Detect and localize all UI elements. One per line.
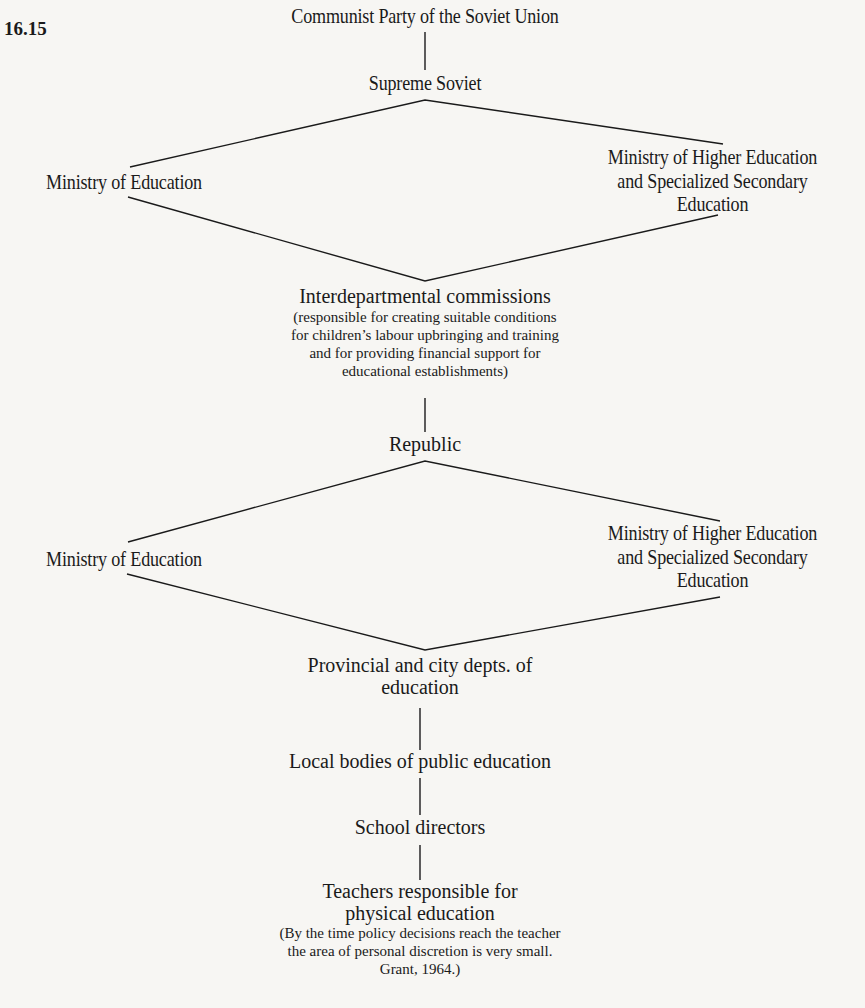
node-interdepartmental-commissions: Interdepartmental commissions (responsib…: [0, 285, 850, 380]
node-school-directors: School directors: [0, 816, 840, 839]
node-label: Communist Party of the Soviet Union: [291, 4, 558, 28]
node-label: Interdepartmental commissions: [0, 285, 850, 308]
node-provincial-city-depts: Provincial and city depts. of education: [0, 654, 840, 698]
node-union-ministry-higher-education: Ministry of Higher Education and Special…: [581, 146, 843, 217]
node-republic: Republic: [0, 433, 850, 456]
node-label: Ministry of Education: [46, 170, 202, 194]
node-label-line1: Teachers responsible for: [0, 880, 840, 902]
node-union-ministry-of-education: Ministry of Education: [24, 170, 224, 194]
node-label-line1: Ministry of Higher Education: [581, 146, 843, 170]
node-label: Republic: [389, 433, 461, 455]
node-label-line2: and Specialized Secondary: [581, 546, 843, 570]
node-supreme-soviet: Supreme Soviet: [60, 71, 791, 95]
node-republic-ministry-higher-education: Ministry of Higher Education and Special…: [581, 522, 843, 593]
node-label-line3: Education: [581, 569, 843, 593]
node-label-line1: Ministry of Higher Education: [581, 522, 843, 546]
node-note-line3: and for providing financial support for: [0, 344, 850, 362]
figure-number: 16.15: [4, 18, 47, 40]
node-label-line3: Education: [581, 193, 843, 217]
node-note-line2: the area of personal discretion is very …: [0, 942, 840, 960]
node-label: Ministry of Education: [46, 547, 202, 571]
node-note-line3: Grant, 1964.): [0, 960, 840, 978]
node-note-line2: for children’s labour upbringing and tra…: [0, 326, 850, 344]
node-note-line4: educational establishments): [0, 362, 850, 380]
node-label-line2: education: [0, 676, 840, 698]
node-label: Supreme Soviet: [369, 71, 481, 95]
node-label: School directors: [355, 816, 486, 838]
node-label-line2: and Specialized Secondary: [581, 170, 843, 194]
node-teachers: Teachers responsible for physical educat…: [0, 880, 840, 978]
node-label-line1: Provincial and city depts. of: [0, 654, 840, 676]
node-label: Local bodies of public education: [289, 750, 551, 772]
node-communist-party: Communist Party of the Soviet Union: [60, 4, 791, 28]
node-republic-ministry-of-education: Ministry of Education: [24, 547, 224, 571]
node-note-line1: (responsible for creating suitable condi…: [0, 308, 850, 326]
node-local-bodies: Local bodies of public education: [0, 750, 840, 773]
node-note-line1: (By the time policy decisions reach the …: [0, 924, 840, 942]
node-label-line2: physical education: [0, 902, 840, 924]
